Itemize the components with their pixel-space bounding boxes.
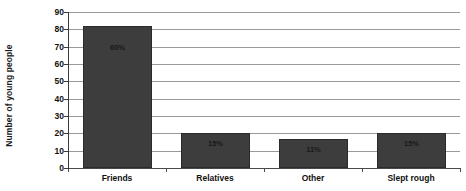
y-axis-tick-mark bbox=[64, 29, 69, 30]
bar: 11% bbox=[279, 139, 348, 168]
y-axis-tick-label: 70 bbox=[38, 43, 64, 52]
y-axis-title-text: Number of young people bbox=[4, 44, 34, 146]
gridline bbox=[68, 12, 460, 13]
bar-value-label: 15% bbox=[182, 139, 249, 148]
bar: 15% bbox=[181, 133, 250, 168]
x-axis-category-label: Friends bbox=[68, 173, 166, 183]
y-axis-tick-mark bbox=[64, 116, 69, 117]
x-axis-tick-mark bbox=[264, 168, 265, 172]
y-axis-tick-mark bbox=[64, 99, 69, 100]
y-axis-tick-label: 0 bbox=[38, 164, 64, 173]
plot-area: 60%15%11%15% bbox=[68, 12, 460, 168]
y-axis-tick-mark bbox=[64, 168, 69, 169]
x-axis-category-label: Slept rough bbox=[362, 173, 460, 183]
x-axis-category-labels: FriendsRelativesOtherSlept rough bbox=[68, 173, 460, 189]
y-axis-tick-label: 90 bbox=[38, 8, 64, 17]
x-axis-tick-mark bbox=[362, 168, 363, 172]
y-axis-tick-label: 80 bbox=[38, 25, 64, 34]
y-axis-tick-mark bbox=[64, 12, 69, 13]
x-axis-tick-mark bbox=[460, 168, 461, 172]
bar-value-label: 15% bbox=[378, 139, 445, 148]
x-axis-tick-mark bbox=[166, 168, 167, 172]
bar-value-label: 60% bbox=[84, 43, 151, 52]
y-axis-tick-label: 40 bbox=[38, 95, 64, 104]
y-axis-tick-mark bbox=[64, 81, 69, 82]
bar: 15% bbox=[377, 133, 446, 168]
y-axis-tick-labels: 9080706050403020100 bbox=[34, 12, 64, 168]
y-axis-tick-mark bbox=[64, 151, 69, 152]
y-axis-tick-label: 20 bbox=[38, 129, 64, 138]
y-axis-tick-label: 30 bbox=[38, 112, 64, 121]
y-axis-tick-mark bbox=[64, 64, 69, 65]
bar: 60% bbox=[83, 26, 152, 168]
bar-chart: Number of young people 90807060504030201… bbox=[0, 0, 466, 191]
y-axis-tick-mark bbox=[64, 133, 69, 134]
y-axis-title: Number of young people bbox=[0, 0, 38, 191]
y-axis-tick-mark bbox=[64, 47, 69, 48]
x-axis-category-label: Relatives bbox=[166, 173, 264, 183]
y-axis-tick-label: 60 bbox=[38, 60, 64, 69]
y-axis-tick-label: 10 bbox=[38, 147, 64, 156]
x-axis-category-label: Other bbox=[264, 173, 362, 183]
bar-value-label: 11% bbox=[280, 145, 347, 154]
y-axis-tick-label: 50 bbox=[38, 77, 64, 86]
